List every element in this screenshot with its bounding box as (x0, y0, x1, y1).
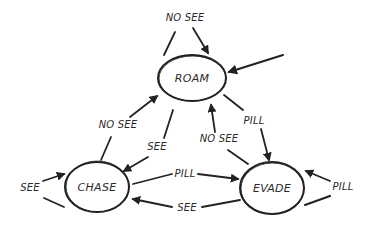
edge-label-roam-chase: SEE (147, 141, 167, 152)
node-roam: ROAM (158, 55, 226, 101)
edge-label-chase-roam: NO SEE (99, 119, 138, 130)
edge-chase-self: SEE (20, 174, 64, 207)
edge-label-roam-self: NO SEE (166, 12, 205, 23)
node-label-roam: ROAM (175, 72, 210, 85)
node-chase: CHASE (65, 161, 129, 212)
node-evade: EVADE (240, 162, 304, 214)
edge-entry-roam (229, 55, 283, 72)
edge-roam-evade: PILL (224, 95, 269, 160)
edge-chase-evade: PILL (133, 168, 238, 184)
edge-roam-self: NO SEE (164, 12, 208, 55)
edge-label-roam-evade: PILL (244, 115, 265, 126)
edge-evade-chase: SEE (133, 199, 240, 213)
edge-evade-self: PILL (305, 171, 353, 205)
edge-label-chase-self: SEE (20, 182, 40, 193)
node-label-evade: EVADE (253, 182, 291, 195)
node-label-chase: CHASE (78, 181, 117, 194)
edge-label-chase-evade: PILL (175, 168, 196, 179)
state-diagram: ROAM CHASE EVADE NO SEE NO SEE SEE PILL (0, 0, 374, 227)
edge-label-evade-roam: NO SEE (200, 133, 239, 144)
edge-evade-roam: NO SEE (200, 105, 248, 164)
edge-label-evade-self: PILL (333, 181, 354, 192)
edge-label-evade-chase: SEE (177, 202, 197, 213)
